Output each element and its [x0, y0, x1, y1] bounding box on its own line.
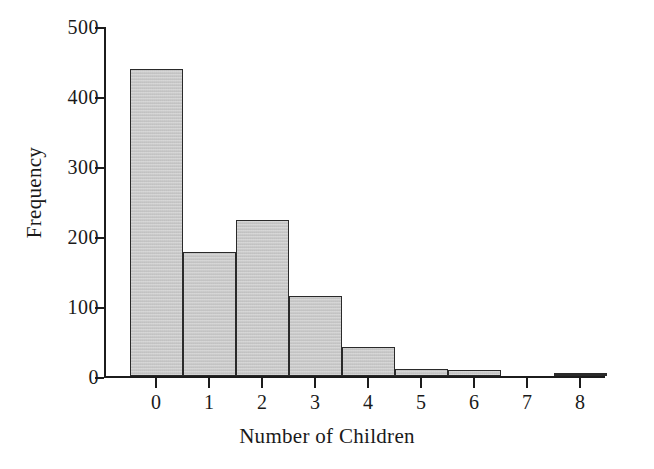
y-tick-label: 100 [68, 296, 100, 319]
x-tick-mark-8 [579, 378, 581, 388]
y-tick-label: 0 [89, 366, 100, 389]
x-tick-mark-3 [314, 378, 316, 388]
x-tick-label-3: 3 [310, 391, 320, 414]
x-tick-mark-4 [367, 378, 369, 388]
y-tick-label: 200 [68, 226, 100, 249]
bar-6 [448, 370, 501, 376]
y-tick-label: 300 [68, 156, 100, 179]
x-tick-mark-2 [261, 378, 263, 388]
bar-5 [395, 369, 448, 376]
bar-0 [130, 69, 183, 376]
x-tick-label-2: 2 [257, 391, 267, 414]
y-axis-line [104, 27, 106, 378]
x-tick-label-6: 6 [469, 391, 479, 414]
x-tick-mark-5 [420, 378, 422, 388]
y-tick-label: 400 [68, 86, 100, 109]
x-axis-line [104, 376, 605, 378]
y-tick-label: 500 [68, 16, 100, 39]
bar-8 [554, 373, 607, 376]
x-tick-mark-7 [526, 378, 528, 388]
x-tick-mark-1 [208, 378, 210, 388]
bar-3 [289, 296, 342, 376]
bar-4 [342, 347, 395, 376]
x-tick-label-1: 1 [204, 391, 214, 414]
bar-1 [183, 252, 236, 376]
x-tick-mark-0 [155, 378, 157, 388]
x-tick-label-0: 0 [151, 391, 161, 414]
x-axis-title: Number of Children [0, 424, 654, 449]
plot-area: 0 100 200 300 400 500 [104, 27, 605, 377]
x-tick-mark-6 [473, 378, 475, 388]
x-tick-label-4: 4 [363, 391, 373, 414]
histogram-figure: 0 100 200 300 400 500 [0, 0, 654, 469]
x-tick-label-8: 8 [575, 391, 585, 414]
y-axis-title: Frequency [22, 113, 47, 273]
x-tick-label-7: 7 [522, 391, 532, 414]
bar-2 [236, 220, 289, 376]
x-tick-label-5: 5 [416, 391, 426, 414]
